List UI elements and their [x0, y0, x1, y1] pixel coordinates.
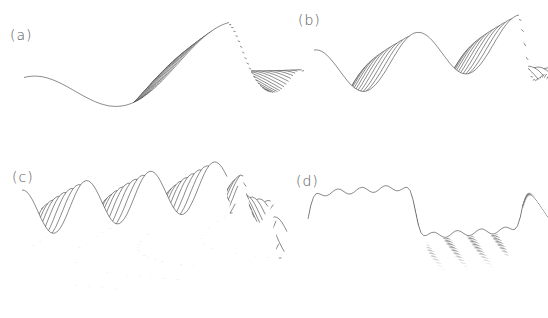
panel-label-a: (a) — [10, 27, 33, 43]
panel-d: (d) — [274, 159, 548, 318]
surface-plot-c — [0, 159, 274, 318]
panel-label-b: (b) — [298, 12, 321, 28]
panel-label-d: (d) — [296, 173, 319, 189]
panel-b: (b) — [274, 0, 548, 159]
surface-plot-a — [0, 0, 274, 159]
panel-c: (c) — [0, 159, 274, 318]
panel-label-c: (c) — [12, 169, 34, 185]
panel-a: (a) — [0, 0, 274, 159]
